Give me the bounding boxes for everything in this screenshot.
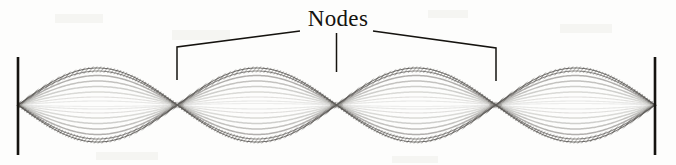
right-fixed-end-bar (654, 57, 657, 155)
node-crossing (330, 102, 343, 108)
node-crossings (171, 102, 503, 108)
node-crossing (489, 102, 502, 108)
standing-wave-figure: Nodes (0, 0, 676, 165)
left-fixed-end-bar (17, 57, 20, 155)
node-crossing (171, 102, 184, 108)
nodes-label: Nodes (0, 6, 676, 32)
